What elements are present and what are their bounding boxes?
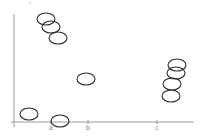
x-tick-label: c <box>155 124 159 132</box>
ellipse-marker <box>42 21 60 33</box>
ellipse-marker <box>163 78 181 90</box>
data-markers <box>20 13 186 127</box>
ellipse-marker <box>167 67 185 79</box>
ellipse-marker <box>20 108 38 120</box>
ellipse-marker <box>51 115 69 127</box>
ellipse-marker <box>49 32 67 44</box>
x-tick-label: b <box>86 124 91 132</box>
x-tick-label: a <box>49 124 53 132</box>
scatter-chart: abc <box>0 0 204 136</box>
ellipse-marker <box>77 73 95 85</box>
ellipse-marker <box>37 13 55 25</box>
ellipse-marker <box>162 90 180 102</box>
faint-mark <box>29 2 31 4</box>
